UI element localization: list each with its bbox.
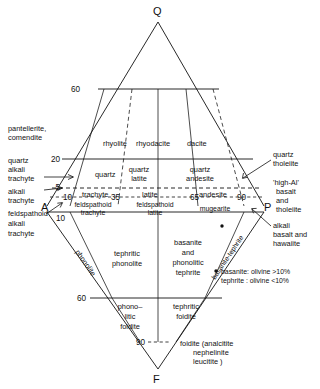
field-andesite: andesite [199, 190, 227, 199]
tick-90-lower: 90 [136, 338, 146, 347]
field-quartz-andesite-l2: andesite [186, 174, 214, 183]
tick-10-left: 10 [56, 214, 66, 223]
callout-quartz-alkali-trachyte-l2: alkali [8, 165, 25, 174]
callout-high-al-l2: basalt [276, 187, 296, 196]
callout-high-al-l1: 'high-Al' [273, 178, 299, 187]
callout-alkali-basalt-l3: hawaiite [273, 239, 300, 248]
vertex-label-p: P [264, 201, 271, 213]
callout-pantellerite-l1: pantellerite, [8, 124, 46, 133]
callout-high-al-l4: tholeiite [276, 205, 301, 214]
note-foidite-l2: nephelinite [193, 348, 229, 357]
tick-20-upper: 20 [51, 155, 61, 164]
callout-high-al-l3: and [276, 196, 288, 205]
vertex-label-f: F [153, 373, 160, 385]
field-phonolitic-foidite-l1: phono– [118, 302, 144, 311]
tick-60-upper: 60 [71, 85, 81, 94]
field-latite: latite [142, 190, 158, 199]
field-feldspathoid-trachyte-l2: trachyte [81, 209, 106, 217]
field-rhyodacite: rhyodacite [136, 139, 170, 148]
edge-label-phonolite: phonolite [73, 248, 98, 278]
field-mugearite: mugearite [200, 205, 231, 213]
callout-pantellerite-l2: comendite [8, 133, 42, 142]
callout-feldspathoid-alkali-trachyte-l2: alkali [8, 219, 25, 228]
field-dacite: dacite [187, 139, 207, 148]
callout-feldspathoid-alkali-trachyte-l1: feldspathoid [8, 209, 48, 218]
footnote-marker-dot-upper [220, 224, 223, 227]
field-tephritic-foidite-l1: tephritic [173, 302, 199, 311]
field-feldspathoid-trachyte-l1: feldspathoid [74, 201, 111, 209]
tick-60-lower: 60 [77, 294, 87, 303]
field-quartz-andesite-l1: quartz [190, 165, 211, 174]
field-basanite-l1: basanite [174, 238, 202, 247]
tick-90-ap: 90 [237, 193, 247, 202]
note-foidite-l3: leucitite ) [193, 357, 223, 366]
field-quartz-latite-l1: quartz [129, 165, 150, 174]
field-basanite-l3: phonolitic [172, 258, 204, 267]
field-phonolitic-foidite-l3: foidite [120, 322, 140, 331]
footnote-tephrite-olivine: tephrite : olivine <10% [221, 277, 289, 285]
field-rhyolite: rhyolite [103, 139, 127, 148]
callout-quartz-alkali-trachyte-l3: trachyte [8, 174, 34, 183]
field-tephritic-phonolite-l2: phonolite [112, 259, 142, 268]
callout-alkali-trachyte-l1: alkali [8, 187, 25, 196]
field-basanite-l4: tephrite [176, 268, 201, 277]
field-trachyte: trachyte [82, 190, 108, 199]
field-quartz-latite-l2: latite [131, 174, 147, 183]
field-phonolitic-foidite-l2: litic [125, 312, 136, 321]
callout-alkali-basalt-l1: alkali [273, 221, 290, 230]
callout-alkali-basalt-l2: basalt and [273, 230, 307, 239]
field-feldspathoid-latite-l2: latite [148, 209, 163, 216]
tick-35-ap: 35 [111, 193, 121, 202]
callout-quartz-alkali-trachyte-l1: quartz [8, 156, 29, 165]
callout-quartz-tholeiite-l1: quartz [273, 150, 294, 159]
tick-10-ap: 10 [63, 193, 73, 202]
field-feldspathoid-latite-l1: feldspathoid [136, 201, 173, 209]
note-foidite-l1: foidite (analcitite [180, 339, 233, 348]
callout-quartz-tholeiite-l2: tholeiite [273, 159, 298, 168]
footnote-marker-dot-lower [214, 269, 217, 272]
vertex-label-q: Q [153, 5, 162, 17]
callout-feldspathoid-alkali-trachyte-l3: trachyte [8, 229, 34, 238]
field-quartz: quartz [95, 170, 116, 179]
callout-alkali-trachyte-l2: trachyte [8, 196, 34, 205]
field-tephritic-phonolite-l1: tephritic [114, 249, 140, 258]
field-basanite-l2: and [182, 248, 194, 257]
field-tephritic-foidite-l2: foidite [176, 312, 196, 321]
qapf-diagram: Q A P F 60 20 5 10 35 65 90 10 60 90 rhy… [0, 0, 320, 389]
footnote-basanite-olivine: basanite: olivine >10% [221, 268, 290, 275]
